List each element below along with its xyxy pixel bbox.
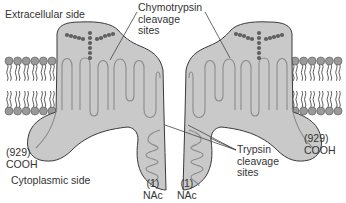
lipid-head [300, 107, 308, 115]
chymotrypsin-cleavage-label: Chymotrypsin cleavage sites [138, 2, 202, 37]
lipid-head [300, 57, 308, 65]
trypsin-cleavage-label: Trypsin cleavage sites [237, 144, 279, 179]
lipid-head [308, 107, 316, 115]
left-c-terminus-label: (929) COOH [6, 147, 38, 170]
cytoplasmic-side-label: Cytoplasmic side [11, 175, 90, 187]
lipid-head [39, 57, 47, 65]
lipid-head [317, 57, 325, 65]
lipid-head [14, 107, 22, 115]
lipid-head [14, 57, 22, 65]
lipid-head [31, 107, 39, 115]
lipid-head [325, 57, 333, 65]
right-lipid-bilayer [291, 57, 342, 115]
lipid-head [22, 57, 30, 65]
lipid-head [325, 107, 333, 115]
lipid-head [31, 57, 39, 65]
lipid-head [317, 107, 325, 115]
right-c-terminus-label: (929) COOH [304, 133, 336, 156]
extracellular-side-label: Extracellular side [5, 9, 85, 21]
lipid-head [5, 107, 13, 115]
trypsin-leader-3 [210, 138, 236, 150]
left-n-terminus-label: (1) NAc [143, 178, 163, 201]
left-lipid-bilayer [5, 57, 56, 115]
left-protein-body [28, 22, 167, 190]
left-protein-monomer [28, 22, 167, 190]
lipid-head [48, 57, 56, 65]
right-n-terminus-label: (1) NAc [177, 178, 197, 201]
lipid-head [22, 107, 30, 115]
lipid-head [5, 57, 13, 65]
lipid-head [308, 57, 316, 65]
lipid-head [334, 57, 342, 65]
lipid-head [39, 107, 47, 115]
lipid-head [334, 107, 342, 115]
